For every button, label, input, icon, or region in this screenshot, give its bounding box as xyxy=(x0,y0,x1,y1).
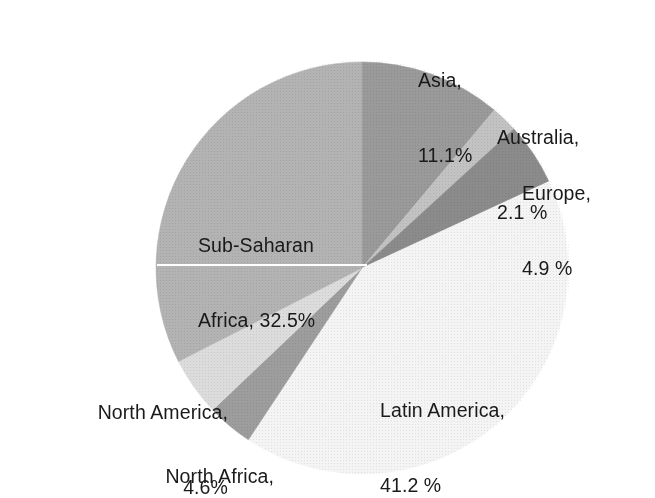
slice-label-latin-america: Latin America, 41.2 % xyxy=(380,348,505,498)
slice-label-north-africa-name: North Africa, xyxy=(88,464,274,489)
slice-label-asia-name: Asia, xyxy=(418,68,472,93)
slice-label-sub-saharan-africa-value: Africa, 32.5% xyxy=(198,308,315,333)
slice-label-latin-america-name: Latin America, xyxy=(380,398,505,423)
slice-label-europe: Europe, 4.9 % xyxy=(522,131,591,331)
slice-label-latin-america-value: 41.2 % xyxy=(380,473,505,498)
slice-label-asia-value: 11.1% xyxy=(418,143,472,168)
pie-chart-figure: Asia, 11.1% Australia, 2.1 % Europe, 4.9… xyxy=(0,0,655,498)
slice-label-north-africa: North Africa, 3.6% xyxy=(88,414,274,498)
slice-label-sub-saharan-africa-name: Sub-Saharan xyxy=(198,233,315,258)
slice-label-asia: Asia, 11.1% xyxy=(418,18,472,218)
slice-label-europe-name: Europe, xyxy=(522,181,591,206)
slice-label-europe-value: 4.9 % xyxy=(522,256,591,281)
